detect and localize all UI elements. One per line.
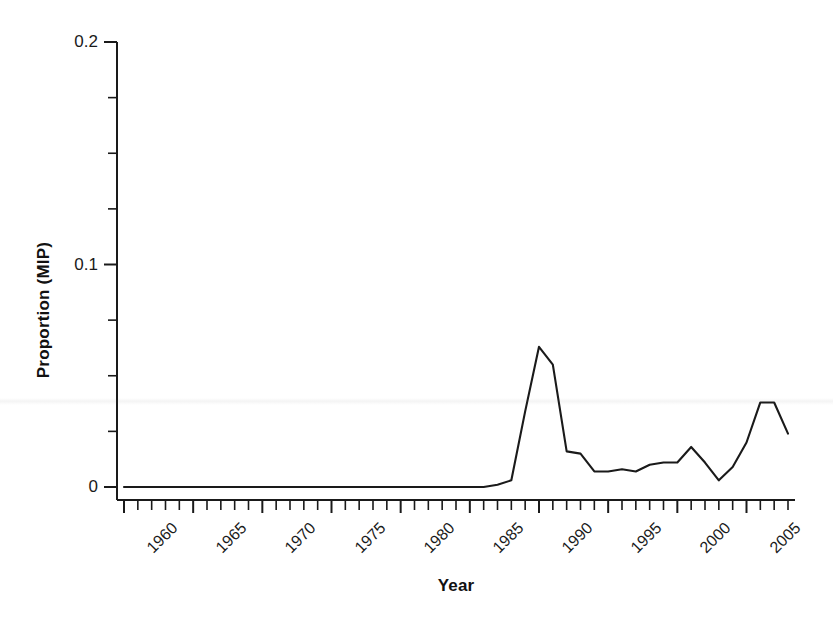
y-tick-label: 0.1 <box>40 255 98 275</box>
y-axis-ticks <box>104 42 117 487</box>
axes <box>117 42 795 500</box>
chart-figure: Proportion (MIP) Year 00.10.2 1960196519… <box>0 0 833 619</box>
y-tick-label: 0.2 <box>40 32 98 52</box>
plot-area <box>0 0 833 619</box>
data-series-line <box>124 347 788 487</box>
y-tick-label: 0 <box>40 477 98 497</box>
x-axis-ticks <box>124 500 788 513</box>
